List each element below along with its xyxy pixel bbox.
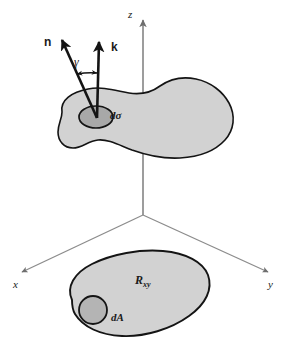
surface-element-label: dσ [110, 110, 121, 121]
vector-label-n: n [44, 36, 51, 48]
area-element-label: dA [111, 312, 124, 323]
projection-region-label: Rxy [135, 274, 151, 289]
area-element-circle [79, 296, 107, 324]
figure-root: z x y n k γ dσ Rxy dA [0, 0, 291, 350]
axis-label-y: y [268, 279, 273, 290]
angle-label-gamma: γ [74, 56, 79, 68]
projection-region [70, 251, 210, 337]
axis-label-z: z [128, 9, 132, 20]
axis-label-x: x [13, 279, 18, 290]
projection-region-label-subscript: xy [143, 280, 151, 289]
projection-region-label-base: R [135, 273, 143, 287]
figure-canvas [0, 0, 291, 350]
gamma-angle-indicator [77, 73, 97, 74]
vector-label-k: k [111, 41, 118, 53]
